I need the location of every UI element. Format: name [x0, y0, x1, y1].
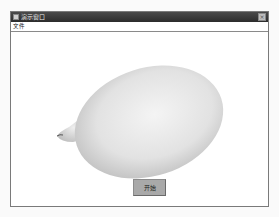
app-icon	[13, 14, 19, 20]
render-canvas: 开始	[11, 32, 268, 206]
start-button[interactable]: 开始	[133, 179, 166, 196]
menu-bar: 文件	[11, 22, 268, 32]
close-button[interactable]: ×	[258, 13, 266, 21]
title-bar[interactable]: 演示窗口 ×	[11, 12, 268, 22]
demo-window: 演示窗口 × 文件 开始	[10, 11, 269, 207]
menu-file[interactable]: 文件	[13, 22, 25, 31]
window-title: 演示窗口	[21, 12, 45, 22]
